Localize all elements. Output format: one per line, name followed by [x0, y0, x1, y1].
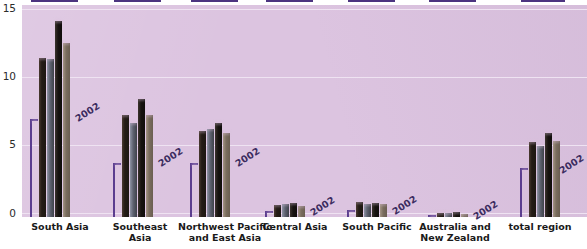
y-tick-0: 0	[0, 208, 16, 218]
bar-total-region-bar-4	[553, 141, 560, 217]
y-tick-10: 10	[0, 71, 16, 81]
bar-south-asia-bar-3	[55, 21, 62, 217]
bar-australia-and-new-zealand-bar-4	[461, 214, 468, 217]
bar-south-asia-bar-1	[39, 58, 46, 217]
bars	[30, 5, 70, 217]
bar-south-pacific-2002-reference	[347, 210, 355, 217]
ref-line-6	[521, 0, 565, 2]
bar-southeast-asia-bar-1	[122, 115, 129, 217]
bar-northwest-pacific-and-east-asia-bar-2	[207, 129, 214, 217]
x-label-total-region: total region	[495, 221, 585, 232]
x-label-line2: New Zealand	[400, 232, 510, 243]
bar-total-region-bar-3	[545, 133, 552, 217]
bar-northwest-pacific-and-east-asia-bar-4	[223, 133, 230, 217]
bar-total-region-bar-1	[529, 142, 536, 217]
ref-line-2	[191, 0, 238, 2]
bar-south-pacific-bar-2	[364, 204, 371, 217]
ref-line-4	[348, 0, 395, 2]
bar-northwest-pacific-and-east-asia-2002-reference	[190, 163, 198, 217]
bar-southeast-asia-2002-reference	[113, 163, 121, 217]
bars	[347, 5, 387, 217]
bar-australia-and-new-zealand-bar-3	[453, 212, 460, 217]
bars	[265, 5, 305, 217]
bar-southeast-asia-bar-4	[146, 115, 153, 217]
bar-south-asia-bar-2	[47, 59, 54, 217]
x-label-line1: Australia and	[400, 221, 510, 232]
bar-australia-and-new-zealand-bar-1	[437, 213, 444, 217]
ref-line-1	[114, 0, 161, 2]
bar-central-asia-2002-reference	[265, 211, 273, 217]
bar-northwest-pacific-and-east-asia-bar-1	[199, 131, 206, 217]
bars	[113, 5, 153, 217]
x-label-line1: total region	[495, 221, 585, 232]
ref-line-3	[266, 0, 313, 2]
bar-australia-and-new-zealand-2002-reference	[428, 215, 436, 217]
ref-line-0	[31, 0, 78, 2]
bars	[520, 5, 560, 217]
y-tick-5: 5	[0, 139, 16, 149]
bar-south-pacific-bar-4	[380, 204, 387, 217]
bar-central-asia-bar-3	[290, 203, 297, 217]
bar-south-asia-bar-4	[63, 43, 70, 217]
bar-total-region-2002-reference	[520, 168, 528, 217]
bar-south-pacific-bar-1	[356, 202, 363, 217]
ref-line-5	[429, 0, 476, 2]
bar-central-asia-bar-1	[274, 205, 281, 217]
bar-northwest-pacific-and-east-asia-bar-3	[215, 123, 222, 217]
bar-central-asia-bar-4	[298, 206, 305, 217]
bar-southeast-asia-bar-2	[130, 123, 137, 217]
y-tick-15: 15	[0, 3, 16, 13]
bars	[190, 5, 230, 217]
bars	[428, 5, 468, 217]
bar-australia-and-new-zealand-bar-2	[445, 213, 452, 217]
bar-total-region-bar-2	[537, 146, 544, 217]
x-label-line2: and East Asia	[160, 232, 290, 243]
bar-central-asia-bar-2	[282, 204, 289, 217]
x-label-australia-and-new-zealand: Australia and New Zealand	[400, 221, 510, 243]
bar-south-pacific-bar-3	[372, 203, 379, 217]
bar-chart: 15 10 5 0 2002 2002 2002 2002 2002 2002 …	[0, 0, 587, 249]
bar-south-asia-2002-reference	[30, 119, 38, 217]
bar-southeast-asia-bar-3	[138, 99, 145, 217]
